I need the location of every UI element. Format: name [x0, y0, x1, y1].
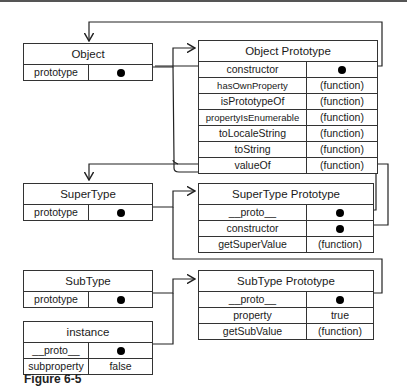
supertype-prototype-box: SuperType Prototype __proto__ constructo… [198, 183, 374, 253]
object-prototype-box: Object Prototype constructor hasOwnPrope… [198, 40, 378, 174]
table-row: constructor [199, 62, 377, 78]
table-row: __proto__ [24, 343, 152, 359]
row-value: (function) [307, 237, 373, 252]
figure-caption: Figure 6-5 [24, 372, 81, 386]
table-row: toString(function) [199, 142, 377, 158]
row-key: constructor [199, 221, 307, 236]
row-value [307, 205, 373, 220]
pointer-dot-icon [117, 69, 125, 77]
row-value [307, 292, 373, 307]
row-key: property [199, 308, 307, 323]
row-key: __proto__ [199, 205, 307, 220]
row-key: prototype [24, 65, 89, 80]
row-value [89, 343, 152, 358]
object-box: Object prototype [23, 43, 153, 81]
table-row: __proto__ [199, 205, 373, 221]
row-key: valueOf [199, 158, 307, 173]
table-row: getSubValue(function) [199, 324, 373, 339]
row-value [307, 62, 377, 77]
table-row: valueOf(function) [199, 158, 377, 173]
subtype-row-prototype: prototype [24, 292, 152, 307]
row-value: (function) [307, 78, 377, 93]
row-key: getSubValue [199, 324, 307, 339]
table-row: toLocaleString(function) [199, 126, 377, 142]
row-key: prototype [24, 205, 89, 220]
row-value: false [89, 359, 152, 374]
pointer-dot-icon [117, 347, 125, 355]
table-row: propertyIsEnumerable(function) [199, 110, 377, 126]
subtype-prototype-title: SubType Prototype [199, 271, 373, 292]
table-row: getSuperValue(function) [199, 237, 373, 252]
table-row: propertytrue [199, 308, 373, 324]
row-value: (function) [307, 94, 377, 109]
row-key: __proto__ [199, 292, 307, 307]
supertype-row-prototype: prototype [24, 205, 152, 220]
subtype-prototype-box: SubType Prototype __proto__ propertytrue… [198, 270, 374, 340]
row-key: propertyIsEnumerable [199, 110, 307, 125]
table-row: constructor [199, 221, 373, 237]
row-value: true [307, 308, 373, 323]
row-key: isPrototypeOf [199, 94, 307, 109]
row-value: (function) [307, 324, 373, 339]
object-row-prototype: prototype [24, 65, 152, 80]
top-border [0, 0, 407, 2]
row-value [89, 65, 152, 80]
pointer-dot-icon [336, 209, 344, 217]
row-value: (function) [307, 158, 377, 173]
subtype-title: SubType [24, 271, 152, 292]
instance-box: instance __proto__ subpropertyfalse [23, 321, 153, 375]
pointer-dot-icon [117, 296, 125, 304]
subtype-box: SubType prototype [23, 270, 153, 308]
supertype-box: SuperType prototype [23, 183, 153, 221]
row-key: toLocaleString [199, 126, 307, 141]
pointer-dot-icon [336, 225, 344, 233]
row-value [307, 221, 373, 236]
pointer-dot-icon [336, 296, 344, 304]
row-key: constructor [199, 62, 307, 77]
supertype-prototype-title: SuperType Prototype [199, 184, 373, 205]
row-key: getSuperValue [199, 237, 307, 252]
row-value: (function) [307, 126, 377, 141]
row-value [89, 205, 152, 220]
row-key: __proto__ [24, 343, 89, 358]
object-title: Object [24, 44, 152, 65]
pointer-dot-icon [117, 209, 125, 217]
supertype-title: SuperType [24, 184, 152, 205]
row-key: toString [199, 142, 307, 157]
object-prototype-title: Object Prototype [199, 41, 377, 62]
instance-title: instance [24, 322, 152, 343]
row-value: (function) [307, 110, 377, 125]
row-value: (function) [307, 142, 377, 157]
row-key: hasOwnProperty [199, 78, 307, 93]
table-row: __proto__ [199, 292, 373, 308]
table-row: hasOwnProperty(function) [199, 78, 377, 94]
row-value [89, 292, 152, 307]
row-key: prototype [24, 292, 89, 307]
pointer-dot-icon [338, 66, 346, 74]
table-row: isPrototypeOf(function) [199, 94, 377, 110]
